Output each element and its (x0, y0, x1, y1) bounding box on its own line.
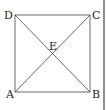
label-e: E (49, 40, 57, 53)
square-diagram: D C E A B (0, 0, 106, 110)
label-a: A (5, 88, 15, 101)
label-c: C (92, 9, 100, 22)
label-b: B (92, 88, 100, 101)
label-d: D (4, 9, 13, 22)
